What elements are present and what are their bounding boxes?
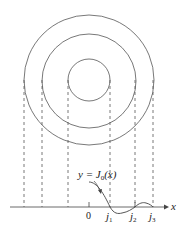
inner-circle <box>68 59 110 101</box>
axis-label-x: x <box>170 200 176 212</box>
bessel-diagram: y = J0(x) x 0 j1 j2 j3 <box>0 0 183 234</box>
outer-circle <box>24 15 154 145</box>
axis-arrow-icon <box>164 205 169 210</box>
middle-circle <box>42 34 136 128</box>
label-arrow-head-icon <box>98 189 102 194</box>
bessel-curve <box>89 182 153 213</box>
tick-label-j3: j3 <box>147 210 156 224</box>
tick-label-j2: j2 <box>128 210 137 224</box>
projection-dashed-lines <box>24 80 153 207</box>
tick-label-j1: j1 <box>104 210 113 224</box>
tick-label-0: 0 <box>86 210 91 221</box>
concentric-circles <box>24 15 154 145</box>
curve-label: y = J0(x) <box>77 168 117 182</box>
